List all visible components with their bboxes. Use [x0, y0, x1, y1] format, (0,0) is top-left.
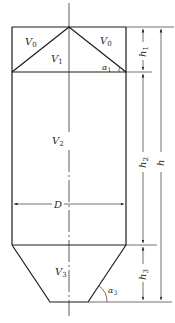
v1-label: V1 — [51, 53, 63, 66]
alpha3-label: α3 — [108, 286, 117, 296]
v0-left-label: V0 — [25, 36, 37, 49]
alpha1-arc — [119, 67, 120, 72]
d-label: D — [53, 199, 62, 210]
h-label: h — [155, 160, 166, 166]
vessel-diagram: V0 V0 V1 V2 V3 D α1 α3 h1 h2 h3 h — [0, 0, 175, 323]
v0-right-label: V0 — [100, 35, 112, 48]
v3-label: V3 — [55, 266, 67, 279]
v2-label: V2 — [52, 135, 64, 148]
alpha1-label: α1 — [102, 63, 111, 73]
alpha3-arc — [99, 286, 107, 302]
